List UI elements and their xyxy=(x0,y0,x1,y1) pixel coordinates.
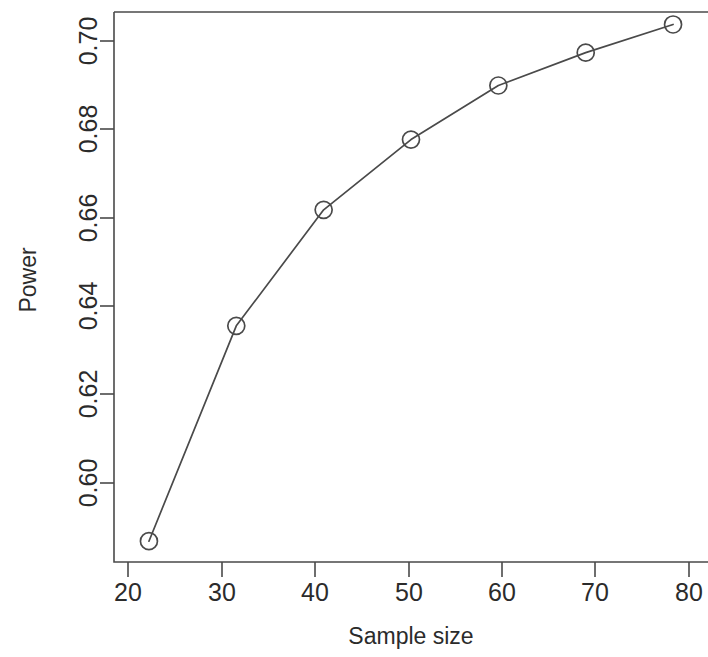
y-tick-label: 0.62 xyxy=(74,370,102,419)
x-tick-label: 40 xyxy=(301,578,329,606)
x-axis-title: Sample size xyxy=(348,623,473,649)
x-tick-label: 70 xyxy=(581,578,609,606)
y-tick-label: 0.70 xyxy=(74,17,102,66)
y-axis-tick-labels: 0.70 0.68 0.66 0.64 0.62 0.60 xyxy=(74,17,102,508)
data-line-power xyxy=(149,24,673,541)
x-tick-label: 50 xyxy=(395,578,423,606)
y-axis-title: Power xyxy=(15,247,41,313)
x-tick-label: 60 xyxy=(488,578,516,606)
y-tick-label: 0.66 xyxy=(74,194,102,243)
x-axis-ticks xyxy=(128,562,689,577)
x-tick-label: 80 xyxy=(675,578,703,606)
x-tick-label: 20 xyxy=(114,578,142,606)
y-tick-label: 0.60 xyxy=(74,459,102,508)
power-vs-sample-size-chart: 0.70 0.68 0.66 0.64 0.62 0.60 Power 20 3… xyxy=(0,0,708,657)
x-tick-label: 30 xyxy=(208,578,236,606)
y-tick-label: 0.64 xyxy=(74,282,102,331)
y-tick-label: 0.68 xyxy=(74,105,102,154)
chart-canvas: 0.70 0.68 0.66 0.64 0.62 0.60 Power 20 3… xyxy=(0,0,708,657)
y-axis-ticks xyxy=(100,41,114,483)
data-markers-power xyxy=(140,16,681,550)
plot-frame-left-bottom xyxy=(114,12,708,562)
x-axis-tick-labels: 20 30 40 50 60 70 80 xyxy=(114,578,703,606)
